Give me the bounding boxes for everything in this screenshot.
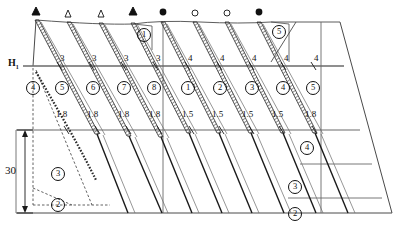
spacing-label: 1.5 [242, 110, 253, 119]
zone-marker: 3 [245, 81, 259, 95]
zone-marker: 2 [51, 198, 65, 212]
zone-marker: 4 [26, 81, 40, 95]
spacing-label: 1.8 [56, 110, 67, 119]
filled-circle-icon [256, 9, 263, 16]
spacing-label: 1.5 [182, 110, 193, 119]
hollow-triangle-icon [98, 10, 104, 17]
tick-label: 3 [124, 54, 129, 63]
zone-marker: 5 [306, 81, 320, 95]
callout-marker: 1 [137, 28, 151, 42]
tick-label: 4 [314, 54, 319, 63]
height-dimension-label: 30 [5, 165, 16, 176]
filled-triangle-icon [32, 7, 40, 15]
spacing-label: 1.8 [149, 110, 160, 119]
zone-marker: 8 [147, 81, 161, 95]
spacing-label: 1.5 [212, 110, 223, 119]
diagram-canvas: H1 30 3 3 3 3 4 4 4 4 4 1.8 1.8 1.8 1.8 … [0, 0, 402, 230]
spacing-label: 1.8 [87, 110, 98, 119]
tick-label: 4 [188, 54, 193, 63]
zone-marker: 7 [117, 81, 131, 95]
zone-marker: 3 [288, 180, 302, 194]
zone-marker: 4 [300, 141, 314, 155]
zone-marker: 3 [51, 167, 65, 181]
zone-marker: 5 [55, 81, 69, 95]
hollow-circle-icon [192, 10, 198, 16]
tick-label: 3 [60, 54, 65, 63]
top-marker-layer [0, 0, 402, 30]
hollow-triangle-icon [65, 10, 71, 17]
tick-label: 4 [220, 54, 225, 63]
filled-circle-icon [160, 9, 167, 16]
spacing-label: 1.8 [305, 110, 316, 119]
filled-triangle-icon [129, 7, 137, 15]
zone-marker: 6 [86, 81, 100, 95]
height-dimension-line [17, 130, 33, 213]
zone-marker: 2 [288, 207, 302, 221]
spacing-label: 1.8 [118, 110, 129, 119]
spacing-label: 1.5 [272, 110, 283, 119]
zone-marker: 2 [213, 81, 227, 95]
tick-label: 4 [284, 54, 289, 63]
callout-marker: 5 [272, 25, 286, 39]
tick-label: 3 [92, 54, 97, 63]
zone-marker: 1 [181, 81, 195, 95]
hollow-circle-icon [224, 10, 230, 16]
zone-marker: 4 [276, 81, 290, 95]
tick-label: 3 [156, 54, 161, 63]
tick-label: 4 [252, 54, 257, 63]
crest-level-label: H1 [8, 58, 19, 70]
